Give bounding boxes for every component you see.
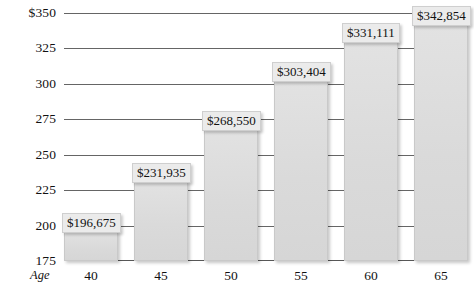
y-axis-title: in thousands [0,0,3,108]
bar-fill [135,181,187,260]
bar-fill [65,231,117,260]
y-tick-label: 225 [35,182,56,198]
y-tick-label: 275 [35,111,56,127]
x-tick-label-55: 55 [294,268,308,284]
bar-series: $196,675 $231,935 $268,550 $303,404 $331… [64,13,468,261]
bar-age-45[interactable] [134,180,188,261]
y-tick-label: $350 [29,5,56,21]
value-label-age-45: $231,935 [132,163,191,183]
y-tick-label: 300 [35,76,56,92]
y-tick-label: 250 [35,147,56,163]
y-axis-tick-labels: $350 325 300 275 250 225 200 175 [0,13,60,261]
x-tick-label-50: 50 [224,268,238,284]
y-tick-label: 200 [35,218,56,234]
y-tick-label: 175 [35,253,56,269]
x-tick-label-60: 60 [364,268,378,284]
value-label-age-65: $342,854 [412,6,471,26]
value-label-age-40: $196,675 [62,213,121,233]
x-axis-title: Age [30,268,49,283]
bar-age-40[interactable] [64,230,118,261]
x-axis: Age 40 45 50 55 60 65 [0,268,474,292]
bar-age-55[interactable] [274,79,328,261]
value-label-age-50: $268,550 [202,111,261,131]
bar-fill [415,24,467,260]
bar-chart: $350 325 300 275 250 225 200 175 in thou… [0,0,474,303]
value-label-age-60: $331,111 [342,23,400,43]
bar-fill [205,129,257,260]
x-tick-label-40: 40 [84,268,98,284]
bar-age-65[interactable] [414,23,468,261]
x-tick-label-45: 45 [154,268,168,284]
bar-age-50[interactable] [204,128,258,261]
value-label-age-55: $303,404 [272,62,331,82]
bar-age-60[interactable] [344,40,398,261]
bar-fill [275,80,327,260]
y-tick-label: 325 [35,40,56,56]
x-tick-label-65: 65 [434,268,448,284]
bar-fill [345,41,397,260]
